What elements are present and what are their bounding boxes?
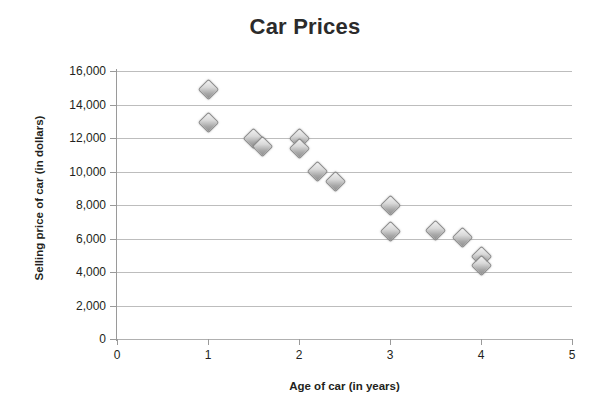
y-axis-tick-label: 16,000 <box>44 65 106 77</box>
gridline-y-16000 <box>117 71 572 72</box>
y-axis-tick-label: 12,000 <box>44 132 106 144</box>
x-axis-tick-label: 0 <box>97 349 137 361</box>
gridline-y-2000 <box>117 306 572 307</box>
x-axis-tick-label: 2 <box>279 349 319 361</box>
y-axis-tick <box>110 172 116 173</box>
gridline-y-14000 <box>117 105 572 106</box>
gridline-y-8000 <box>117 205 572 206</box>
y-axis-tick <box>110 105 116 106</box>
x-axis-tick <box>390 339 391 345</box>
x-axis-tick <box>299 339 300 345</box>
plot-area <box>117 71 572 339</box>
data-point-marker <box>197 111 218 132</box>
data-point-marker <box>452 227 473 248</box>
y-axis-tick <box>110 239 116 240</box>
y-axis-tick-label: 6,000 <box>44 233 106 245</box>
data-point-marker <box>307 161 328 182</box>
data-point-marker <box>379 194 400 215</box>
y-axis-tick-label: 10,000 <box>44 166 106 178</box>
x-axis-title: Age of car (in years) <box>117 380 572 392</box>
y-axis-tick-label: 2,000 <box>44 300 106 312</box>
x-axis-tick-label: 4 <box>461 349 501 361</box>
gridline-y-6000 <box>117 239 572 240</box>
data-point-marker <box>197 79 218 100</box>
gridline-y-10000 <box>117 172 572 173</box>
y-axis-tick-label: 8,000 <box>44 199 106 211</box>
x-axis-tick <box>572 339 573 345</box>
y-axis-tick <box>110 205 116 206</box>
x-axis-tick <box>208 339 209 345</box>
y-axis-tick-label: 14,000 <box>44 99 106 111</box>
car-prices-scatter-chart: Car Prices Selling price of car (in doll… <box>0 0 610 416</box>
x-axis-tick <box>117 339 118 345</box>
data-point-marker <box>325 171 346 192</box>
y-axis-tick-label: 0 <box>44 333 106 345</box>
x-axis-tick-label: 1 <box>188 349 228 361</box>
gridline-y-4000 <box>117 272 572 273</box>
x-axis-tick-label: 5 <box>552 349 592 361</box>
y-axis-tick <box>110 138 116 139</box>
y-axis-tick-label: 4,000 <box>44 266 106 278</box>
x-axis-tick-label: 3 <box>370 349 410 361</box>
y-axis-tick <box>110 339 116 340</box>
gridline-y-0 <box>117 339 572 340</box>
y-axis-tick <box>110 306 116 307</box>
y-axis-tick <box>110 71 116 72</box>
y-axis-tick <box>110 272 116 273</box>
gridline-y-12000 <box>117 138 572 139</box>
x-axis-tick <box>481 339 482 345</box>
